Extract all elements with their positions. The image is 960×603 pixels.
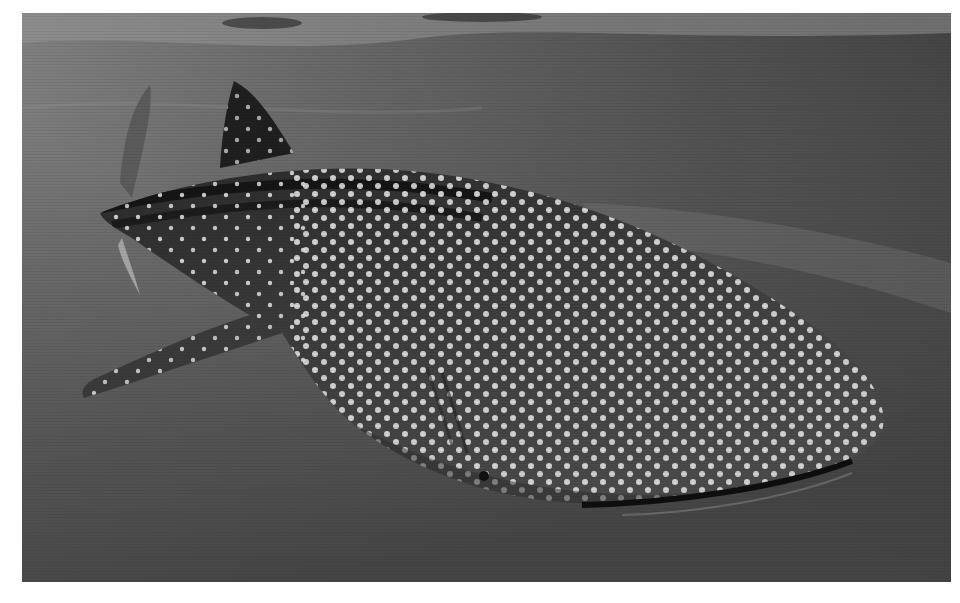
whale-shark-illustration [22, 13, 951, 582]
whale-shark-photo: Whale shark swimming underwater [22, 13, 951, 582]
